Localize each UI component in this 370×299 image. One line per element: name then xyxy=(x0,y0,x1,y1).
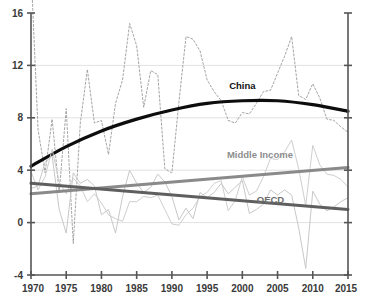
x-tick-label-2015: 2015 xyxy=(335,283,358,294)
x-tick-label-2010: 2010 xyxy=(302,283,325,294)
x-tick-label-2005: 2005 xyxy=(266,283,289,294)
x-tick-label-1985: 1985 xyxy=(126,283,149,294)
chart-canvas: -40481216 197019751980198519901995200020… xyxy=(0,0,370,299)
x-tick-label-1990: 1990 xyxy=(161,283,184,294)
series-line-china-trend xyxy=(31,100,348,166)
gridlines xyxy=(31,65,348,222)
series-line-oecd-trend xyxy=(31,183,348,209)
series-line-middle-income-actual xyxy=(31,140,348,225)
x-tick-label-2000: 2000 xyxy=(231,283,254,294)
series-annotation-middle-income: Middle Income xyxy=(227,149,293,160)
y-tick-label--4: -4 xyxy=(14,270,23,281)
y-tick-label-4: 4 xyxy=(17,165,23,176)
series-lines xyxy=(31,0,348,268)
y-tick-label-12: 12 xyxy=(12,60,24,71)
x-tick-label-1975: 1975 xyxy=(55,283,78,294)
series-annotation-oecd: OECD xyxy=(257,194,285,205)
y-tick-label-16: 16 xyxy=(12,8,24,19)
series-annotation-china: China xyxy=(229,80,256,91)
x-tick-label-1980: 1980 xyxy=(90,283,113,294)
y-tick-label-0: 0 xyxy=(17,217,23,228)
growth-rate-line-chart: -40481216 197019751980198519901995200020… xyxy=(0,0,370,299)
x-tick-label-1970: 1970 xyxy=(22,283,45,294)
y-tick-label-8: 8 xyxy=(17,112,23,123)
x-tick-label-1995: 1995 xyxy=(196,283,219,294)
